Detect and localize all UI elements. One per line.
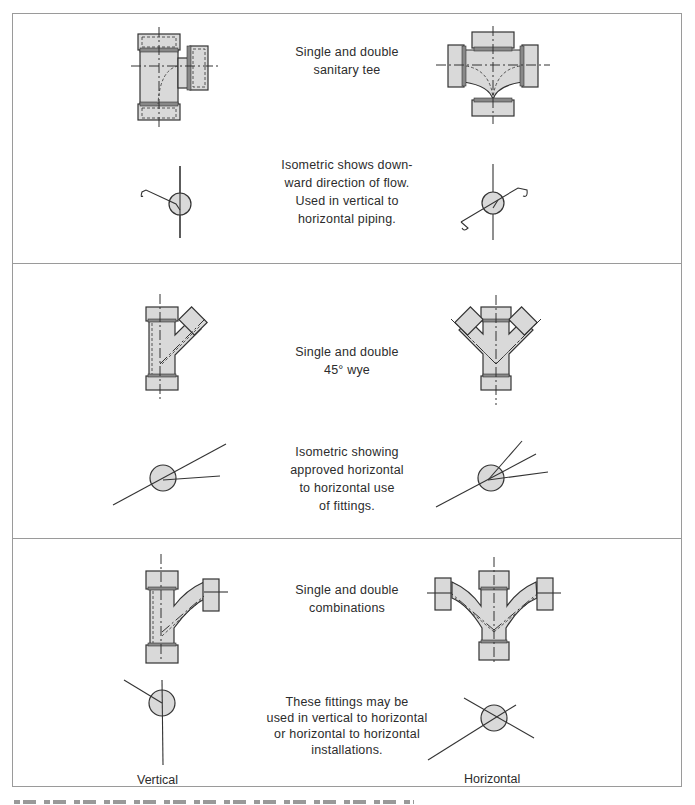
description-line: ward direction of flow. [262,174,432,192]
double-sanitary-tee-icon [436,26,550,124]
title-line: sanitary tee [262,61,432,79]
description-line: Isometric showing [262,443,432,461]
figure-caption-clipped [14,797,414,805]
description-line: horizontal piping. [262,210,432,228]
description-line: used in vertical to horizontal [242,710,452,726]
isometric-vertical-combination-icon [124,680,175,765]
isometric-horizontal-wye-single-icon [113,444,226,505]
title-line: Single and double [262,43,432,61]
isometric-vertical-tee-icon [141,166,191,238]
double-45-wye-icon [451,295,541,405]
title-line: Single and double [262,343,432,361]
description-line: or horizontal to horizontal [242,726,452,742]
single-45-wye-icon [146,294,207,402]
double-combination-icon [427,557,561,664]
single-sanitary-tee-icon [131,27,218,127]
description-line: These fittings may be [242,694,452,710]
isometric-horizontal-wye-double-icon [436,441,548,507]
wye-description: Isometric showing approved horizontal to… [262,443,432,515]
isometric-horizontal-tee-icon [461,164,527,240]
description-line: Isometric shows down- [262,156,432,174]
horizontal-label: Horizontal [464,772,520,786]
sanitary-tee-description: Isometric shows down- ward direction of … [262,156,432,228]
description-line: approved horizontal [262,461,432,479]
combinations-description: These fittings may be used in vertical t… [242,694,452,758]
description-line: to horizontal use [262,479,432,497]
description-line: of fittings. [262,497,432,515]
vertical-label: Vertical [137,773,178,787]
title-line: combinations [262,599,432,617]
sanitary-tee-title: Single and double sanitary tee [262,43,432,79]
wye-title: Single and double 45° wye [262,343,432,379]
title-line: Single and double [262,581,432,599]
single-combination-icon [146,554,228,663]
title-line: 45° wye [262,361,432,379]
description-line: Used in vertical to [262,192,432,210]
combinations-title: Single and double combinations [262,581,432,617]
description-line: installations. [242,742,452,758]
fittings-illustration: .f { fill: #d9d9d9; stroke: #333; stroke… [0,0,695,805]
